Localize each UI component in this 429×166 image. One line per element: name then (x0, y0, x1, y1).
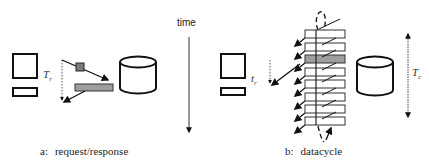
datacycle-latency-label: tr (251, 72, 257, 87)
broadcast-to-client-arrow (272, 64, 300, 85)
caption-prefix: a: (40, 145, 48, 157)
panel-b-caption: b:datacycle (285, 145, 342, 157)
panel-b-datacycle (221, 12, 408, 142)
request-response-latency-label: Tr (43, 68, 52, 83)
panel-a-request-response (13, 54, 156, 102)
client-terminal-icon (221, 54, 245, 95)
caption-text: datacycle (301, 145, 343, 157)
cycle-period-label: Tc (412, 66, 421, 81)
response-bar (75, 84, 113, 91)
datacycle-slots (305, 30, 345, 125)
label-sub: r (49, 75, 52, 83)
label-sub: c (418, 73, 421, 81)
database-icon (357, 57, 393, 96)
request-packet (76, 63, 84, 71)
response-arrow (64, 91, 85, 102)
time-axis-label: time (177, 17, 196, 28)
client-terminal-icon (13, 54, 37, 96)
architecture-diagram (0, 0, 429, 166)
cycle-return-arrow (326, 128, 331, 140)
caption-prefix: b: (285, 145, 294, 157)
caption-text: request/response (55, 145, 128, 157)
database-icon (120, 57, 156, 94)
panel-a-caption: a:request/response (40, 145, 128, 157)
request-arrow (62, 60, 108, 80)
label-sub: r (254, 79, 257, 87)
broadcast-arrows (295, 38, 305, 133)
